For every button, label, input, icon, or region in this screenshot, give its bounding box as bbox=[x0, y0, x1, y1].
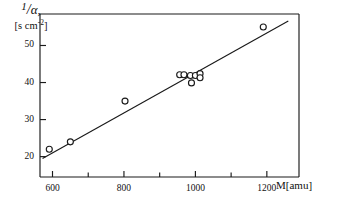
data-point bbox=[67, 139, 73, 145]
axis-frame-lines bbox=[40, 14, 299, 177]
y-tick-label-30: 30 bbox=[12, 114, 34, 124]
fit-line bbox=[43, 21, 289, 158]
x-axis-ticks-minor bbox=[88, 173, 231, 178]
y-axis-label-symbol: 1/α, bbox=[4, 1, 58, 18]
y-tick-label-50: 50 bbox=[12, 39, 34, 49]
data-point bbox=[197, 75, 203, 81]
data-point bbox=[46, 146, 52, 152]
data-point bbox=[260, 24, 266, 30]
data-point bbox=[122, 98, 128, 104]
x-tick-label-600: 600 bbox=[36, 183, 70, 193]
y-axis-units-close: ] bbox=[44, 19, 48, 30]
regression-line bbox=[43, 21, 289, 158]
y-axis-units: [s cm-2] bbox=[4, 19, 58, 31]
y-tick-label-20: 20 bbox=[12, 151, 34, 161]
x-tick-label-1000: 1000 bbox=[178, 183, 212, 193]
x-tick-label-800: 800 bbox=[107, 183, 141, 193]
y-axis-units-base: [s cm bbox=[15, 19, 38, 30]
data-point-group bbox=[46, 24, 266, 152]
y-axis-label: 1/α, [s cm-2] bbox=[4, 1, 58, 30]
axes-frame bbox=[40, 14, 299, 177]
y-tick-label-40: 40 bbox=[12, 77, 34, 87]
x-tick-label-1200: 1200 bbox=[250, 183, 284, 193]
y-axis-ticks bbox=[40, 45, 46, 156]
data-point bbox=[181, 72, 187, 78]
data-point bbox=[188, 80, 194, 86]
y-axis-label-comma: , bbox=[37, 2, 40, 17]
